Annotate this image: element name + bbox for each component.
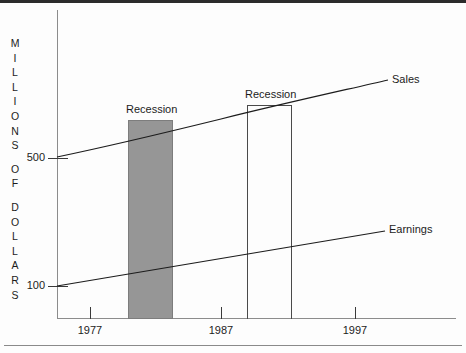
y-caption-letter: N [6, 124, 24, 139]
y-caption-letter: O [6, 215, 24, 230]
y-caption-letter: I [6, 51, 24, 66]
y-caption-letter: I [6, 94, 24, 109]
chart-figure: M I L L I O N S O F D O L L A R S 500 10… [0, 0, 466, 353]
y-caption-letter: L [6, 65, 24, 80]
y-tick-mark-500 [48, 158, 68, 159]
x-tick-mark-1997 [355, 307, 356, 319]
y-caption-letter: D [6, 200, 24, 215]
y-caption-letter: M [6, 36, 24, 51]
x-tick-label-1977: 1977 [66, 324, 114, 336]
y-caption-letter: F [6, 176, 24, 191]
recession-band-1 [128, 120, 173, 319]
bottom-rule [4, 345, 462, 346]
earnings-series-label: Earnings [389, 223, 432, 235]
y-caption-space [6, 191, 24, 200]
series-layer [0, 0, 466, 353]
y-caption-letter: L [6, 244, 24, 259]
sales-series-label: Sales [392, 73, 420, 85]
recession-band-2-label: Recession [245, 88, 295, 100]
recession-band-2 [247, 105, 292, 319]
top-rule [0, 0, 466, 3]
x-tick-mark-1987 [221, 307, 222, 319]
recession-band-1-label: Recession [126, 103, 176, 115]
x-tick-mark-1977 [90, 307, 91, 319]
y-caption-letter: O [6, 162, 24, 177]
x-tick-label-1987: 1987 [197, 324, 245, 336]
earnings-line [57, 231, 385, 286]
y-axis-line [57, 10, 58, 319]
y-tick-label-100: 100 [17, 279, 45, 291]
y-tick-mark-100 [48, 286, 68, 287]
y-caption-letter: L [6, 80, 24, 95]
y-caption-letter: A [6, 258, 24, 273]
y-caption-letter: O [6, 109, 24, 124]
sales-line [57, 80, 388, 157]
y-caption-letter: L [6, 229, 24, 244]
y-axis-caption: M I L L I O N S O F D O L L A R S [6, 36, 24, 302]
y-tick-label-500: 500 [17, 151, 45, 163]
x-tick-label-1997: 1997 [331, 324, 379, 336]
